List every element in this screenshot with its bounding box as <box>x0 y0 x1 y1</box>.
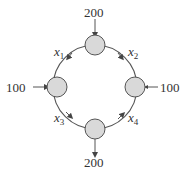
x3-arrow-icon <box>66 112 71 117</box>
x1-label: x1 <box>53 44 64 61</box>
left-flow-label: 100 <box>6 80 26 95</box>
node-right <box>125 77 145 97</box>
top-flow-label: 200 <box>84 5 104 20</box>
x4-label: x4 <box>127 110 139 127</box>
node-left <box>47 77 67 97</box>
node-top <box>85 35 105 55</box>
bottom-flow-label: 200 <box>84 155 104 170</box>
flow-network-diagram: 200 100 100 200 x1 x2 x3 x4 <box>0 0 190 176</box>
x3-label: x3 <box>53 110 65 127</box>
right-flow-label: 100 <box>160 80 180 95</box>
node-bottom <box>85 119 105 139</box>
x2-label: x2 <box>127 44 138 61</box>
